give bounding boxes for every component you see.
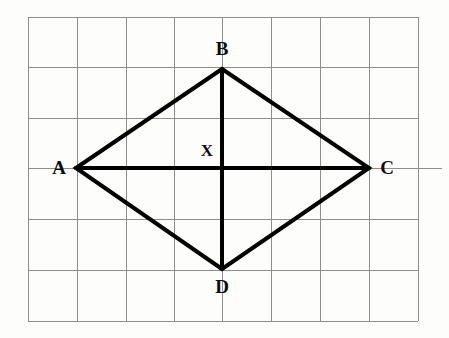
vertex-label-c: C [375,158,399,177]
geometry-figure: A B C D X [0,0,449,338]
vertex-label-b: B [210,39,234,58]
intersection-label-x: X [196,141,218,160]
vertex-label-d: D [210,277,234,296]
vertex-label-a: A [47,158,71,177]
quadrilateral-abcd [76,69,369,269]
